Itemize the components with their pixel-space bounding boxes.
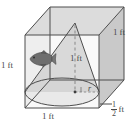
fraction-numerator: 1: [111, 101, 117, 109]
dimension-label-bottom-width: 1 ft: [42, 112, 54, 121]
cone-center-point: [74, 91, 77, 94]
fraction-denominator: 2: [111, 110, 117, 118]
dimension-label-cone-height: 1 ft: [70, 54, 82, 63]
fraction-unit: ft: [119, 105, 125, 114]
dimension-label-right-depth: 1 ft: [113, 28, 125, 37]
radius-variable-label: r: [88, 85, 91, 93]
dimension-label-left-height: 1 ft: [1, 61, 13, 70]
dimension-label-half-foot: 1 2 ft: [111, 101, 124, 118]
fraction-one-half: 1 2: [111, 101, 117, 118]
geometry-figure: 1 ft 1 ft 1 ft 1 ft r 1 2 ft: [0, 0, 139, 126]
